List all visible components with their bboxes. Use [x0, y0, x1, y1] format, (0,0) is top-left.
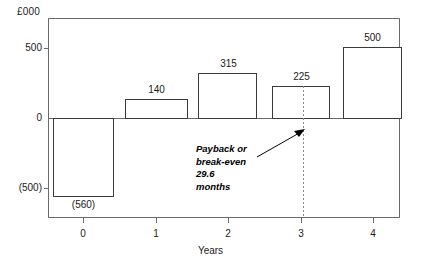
y-tick-label-0: 0	[0, 112, 42, 124]
x-tick-mark-4	[373, 218, 374, 223]
x-tick-mark-2	[228, 218, 229, 223]
payback-annotation-text: Payback or break-even 29.6 months	[196, 143, 247, 193]
x-tick-label-2: 2	[208, 228, 248, 240]
bar-label-year-3: 225	[261, 71, 342, 83]
y-tick-label-500: 500	[0, 42, 42, 54]
x-tick-label-1: 1	[136, 228, 176, 240]
x-tick-label-0: 0	[63, 228, 103, 240]
bar-year-0	[53, 118, 114, 197]
y-tick-mark-neg500	[44, 188, 49, 189]
payback-bar-chart: £000 500 0 (500) (560) 140 315 225 500 P…	[0, 0, 421, 269]
bar-label-year-4: 500	[332, 32, 413, 44]
x-tick-mark-0	[83, 218, 84, 223]
x-tick-mark-3	[301, 218, 302, 223]
x-tick-label-3: 3	[281, 228, 321, 240]
y-tick-label-neg500: (500)	[0, 182, 42, 194]
bar-label-year-2: 315	[188, 58, 269, 70]
bar-label-year-1: 140	[116, 84, 197, 96]
bar-year-3	[272, 86, 330, 119]
bar-year-4	[343, 47, 402, 119]
x-axis-title: Years	[0, 245, 421, 257]
bar-label-year-0: (560)	[43, 199, 124, 211]
y-tick-mark-500	[44, 48, 49, 49]
bar-year-1	[125, 99, 188, 119]
x-tick-label-4: 4	[353, 228, 393, 240]
bar-year-2	[198, 73, 257, 119]
y-axis-unit-label: £000	[17, 6, 40, 18]
payback-annotation-arrow	[255, 125, 310, 160]
x-tick-mark-1	[156, 218, 157, 223]
